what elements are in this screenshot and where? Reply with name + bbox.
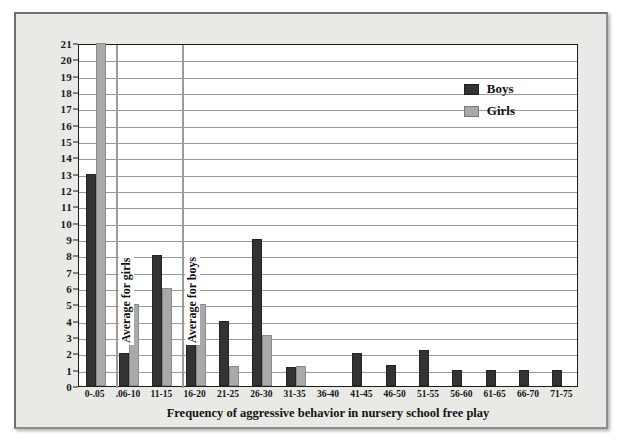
y-tick-label: 5 xyxy=(66,299,72,311)
x-tick-label: 66-70 xyxy=(517,389,539,399)
y-tick-label: 9 xyxy=(66,234,72,246)
y-tick-label: 18 xyxy=(60,87,72,99)
y-tick-label: 8 xyxy=(66,250,72,262)
legend-swatch-girls xyxy=(464,106,479,117)
y-tick-label: 21 xyxy=(60,38,72,50)
legend-swatch-boys xyxy=(464,84,479,95)
x-tick-label: 41-45 xyxy=(350,389,372,399)
legend-label-boys: Boys xyxy=(487,81,514,97)
figure-frame: Number of children 212019181716151413121… xyxy=(14,12,608,429)
y-tick-label: 3 xyxy=(66,332,72,344)
x-tick-label: 31-35 xyxy=(284,389,306,399)
y-tick-label: 4 xyxy=(66,316,72,328)
y-tick-label: 12 xyxy=(60,185,72,197)
y-tick-label: 17 xyxy=(60,103,72,115)
y-tick-label: 14 xyxy=(60,152,72,164)
x-axis-title: Frequency of aggressive behavior in nurs… xyxy=(78,406,578,421)
x-tick-label: 46-50 xyxy=(384,389,406,399)
average-label: Average for boys xyxy=(185,255,200,345)
y-tick-label: 1 xyxy=(66,365,72,377)
chart-screenshot: Number of children 212019181716151413121… xyxy=(0,0,624,446)
y-tick-label: 19 xyxy=(60,71,72,83)
x-tick-label: 61-65 xyxy=(484,389,506,399)
x-tick-label: 16-20 xyxy=(184,389,206,399)
legend-item-girls: Girls xyxy=(464,103,515,119)
y-axis-tick-labels: 2120191817161514131211109876543210 xyxy=(16,14,78,357)
x-tick-label: .06-10 xyxy=(116,389,141,399)
legend: Boys Girls xyxy=(464,81,515,125)
y-tick-label: 15 xyxy=(60,136,72,148)
y-tick-label: 0 xyxy=(66,381,72,393)
plot-area: Average for girlsAverage for boys Boys G… xyxy=(78,44,578,387)
x-tick-label: 56-60 xyxy=(450,389,472,399)
y-tick-label: 13 xyxy=(60,169,72,181)
x-tick-label: 51-55 xyxy=(417,389,439,399)
legend-label-girls: Girls xyxy=(487,103,515,119)
y-tick-label: 11 xyxy=(61,201,72,213)
x-tick-label: 11-15 xyxy=(151,389,173,399)
x-tick-label: 36-40 xyxy=(317,389,339,399)
x-tick-label: 0-.05 xyxy=(85,389,105,399)
y-tick-label: 16 xyxy=(60,120,72,132)
x-tick-label: 26-30 xyxy=(250,389,272,399)
y-tick-label: 20 xyxy=(60,54,72,66)
legend-item-boys: Boys xyxy=(464,81,515,97)
y-tick-label: 7 xyxy=(66,267,72,279)
y-tick-label: 6 xyxy=(66,283,72,295)
y-tick-label: 10 xyxy=(60,218,72,230)
x-tick-label: 71-75 xyxy=(550,389,572,399)
x-tick-label: 21-25 xyxy=(217,389,239,399)
average-label: Average for girls xyxy=(119,255,134,345)
y-tick-label: 2 xyxy=(66,348,72,360)
